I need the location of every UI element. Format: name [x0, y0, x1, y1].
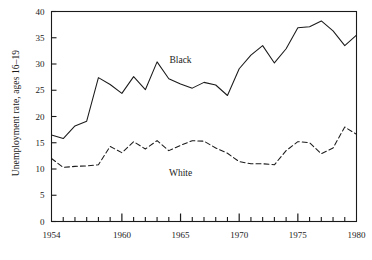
series-line-white — [52, 127, 357, 167]
y-axis-ticks: 0510152025303540 — [36, 7, 57, 227]
unemployment-line-chart: 0510152025303540 19541960196519701975198… — [0, 0, 372, 260]
y-tick-label: 40 — [36, 7, 46, 17]
y-tick-label: 15 — [36, 138, 46, 148]
y-tick-label: 5 — [40, 190, 45, 200]
series-label-black: Black — [169, 55, 191, 65]
x-tick-label: 1975 — [289, 230, 308, 240]
series-label-white: White — [169, 168, 192, 178]
x-tick-label: 1980 — [348, 230, 367, 240]
y-tick-label: 10 — [36, 164, 46, 174]
y-tick-label: 20 — [36, 112, 46, 122]
plot-frame — [52, 12, 357, 222]
y-tick-label: 30 — [36, 59, 46, 69]
x-tick-label: 1954 — [43, 230, 62, 240]
x-tick-label: 1960 — [113, 230, 132, 240]
chart-figure: Unemployment rate, ages 16–19 0510152025… — [0, 0, 372, 260]
y-tick-label: 25 — [36, 85, 46, 95]
y-tick-label: 0 — [40, 217, 45, 227]
data-series-group — [52, 21, 357, 167]
y-tick-label: 35 — [36, 33, 46, 43]
x-axis-ticks: 195419601965197019751980 — [43, 214, 367, 240]
series-annotations-group: BlackWhite — [169, 55, 192, 178]
x-tick-label: 1965 — [172, 230, 191, 240]
series-line-black — [52, 21, 357, 139]
x-tick-label: 1970 — [230, 230, 249, 240]
